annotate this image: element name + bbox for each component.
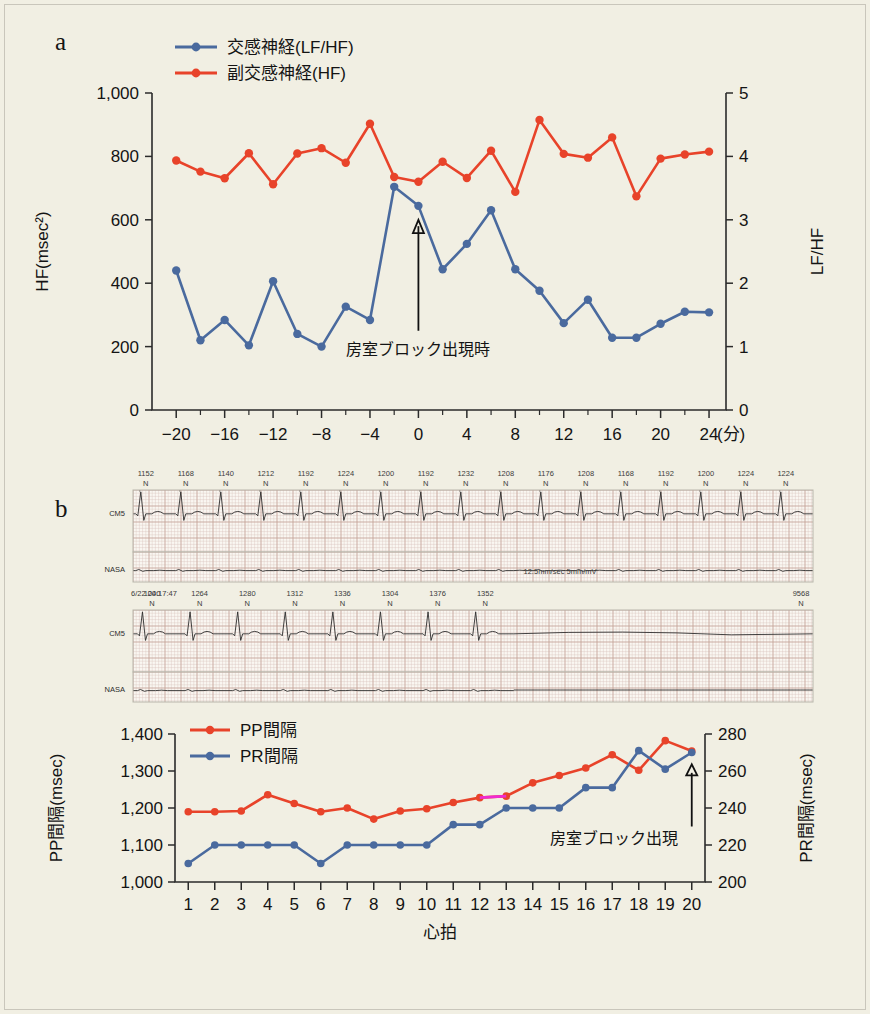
panel-c-ytick-right: 260 (718, 762, 746, 781)
panel-c-datapoint (290, 800, 298, 808)
panel-c-datapoint (502, 804, 510, 812)
panel-c-datapoint (290, 841, 298, 849)
panel-c-datapoint (635, 747, 643, 755)
panel-c-xtick: 20 (682, 895, 701, 914)
panel-c-ytick-right: 240 (718, 799, 746, 818)
panel-a-ytick-left: 1,000 (96, 84, 139, 103)
panel-a-datapoint (342, 159, 350, 167)
panel-c-xtick: 1 (184, 895, 193, 914)
ecg-rr-value: 1212 (257, 469, 274, 478)
panel-a-datapoint (560, 319, 568, 327)
panel-c-xtick: 16 (576, 895, 595, 914)
ecg-rr-value: 1168 (618, 469, 634, 478)
legend-marker (192, 69, 201, 78)
ecg-rr-value: 1168 (178, 469, 194, 478)
panel-c-axes: 1,0001,1001,2001,3001,400200220240260280… (47, 725, 816, 942)
panel-a-xtick: 16 (603, 425, 622, 444)
ecg-rr-value: 1240 (144, 589, 161, 598)
panel-c-datapoint (237, 807, 245, 815)
panel-c-legend-label: PP間隔 (240, 721, 297, 740)
panel-a-ytick-right: 0 (739, 401, 748, 420)
panel-c-datapoint (555, 804, 563, 812)
panel-a-datapoint (390, 183, 398, 191)
panel-c-ytick-left: 1,300 (120, 762, 163, 781)
panel-a-datapoint (172, 156, 180, 164)
ecg-rr-value: 1140 (218, 469, 234, 478)
ecg-strip-2: 6/22 00:17:471240N1264N1280N1312N1336N13… (105, 589, 813, 702)
figure-page: a 02004006008001,000012345−20−16−12−8−40… (0, 0, 870, 1014)
ecg-rr-value: 1200 (377, 469, 394, 478)
panel-a-datapoint (463, 174, 471, 182)
panel-c-ytick-left: 1,000 (120, 873, 163, 892)
panel-c-xtick: 7 (343, 895, 352, 914)
panel-c-datapoint (423, 841, 431, 849)
panel-c-datapoint (661, 765, 669, 773)
ecg-beat-label: N (387, 599, 392, 608)
panel-a-datapoint (269, 180, 277, 188)
panel-c-ytick-right: 280 (718, 725, 746, 744)
ecg-lead-label-cm5: CM5 (109, 509, 125, 518)
ecg-rr-value: 1200 (697, 469, 714, 478)
ecg-beat-label: N (463, 479, 468, 488)
panel-c-xtick: 17 (603, 895, 622, 914)
panel-a-datapoint (681, 150, 689, 158)
panel-c-datapoint (608, 784, 616, 792)
ecg-beat-label: N (783, 479, 788, 488)
ecg-beat-label: N (623, 479, 628, 488)
panel-a-ytick-left: 0 (130, 401, 139, 420)
panel-a-xtick: 4 (462, 425, 471, 444)
panel-a-datapoint (511, 188, 519, 196)
panel-a-legend: 交感神経(LF/HF)副交感神経(HF) (175, 38, 354, 83)
panel-a-xtick: 0 (414, 425, 423, 444)
panel-c-xtick: 12 (470, 895, 489, 914)
panel-a-datapoint (245, 341, 253, 349)
ecg-beat-label: N (197, 599, 202, 608)
panel-a-legend-label: 交感神経(LF/HF) (227, 38, 354, 57)
panel-c-datapoint (529, 779, 537, 787)
panel-a-datapoint (172, 266, 180, 274)
panel-c-datapoint (343, 804, 351, 812)
panel-c-datapoint (529, 804, 537, 812)
panel-c-xtick: 4 (263, 895, 272, 914)
panel-c-xlabel: 心拍 (423, 923, 457, 942)
panel-c-xtick: 19 (656, 895, 675, 914)
panel-a-datapoint (293, 149, 301, 157)
ecg-rr-value: 1376 (429, 589, 446, 598)
ecg-rr-value: 1232 (457, 469, 474, 478)
panel-a-chart: 02004006008001,000012345−20−16−12−8−4048… (0, 0, 870, 470)
panel-a-ytick-right: 5 (739, 84, 748, 103)
panel-c-xtick: 11 (444, 895, 462, 914)
ecg-lead-label-nasa: NASA (105, 565, 125, 574)
ecg-beat-label: N (183, 479, 188, 488)
panel-c-datapoint (396, 841, 404, 849)
panel-a-datapoint (196, 336, 204, 344)
panel-a-datapoint (487, 206, 495, 214)
panel-c-xtick: 10 (417, 895, 436, 914)
panel-c-xtick: 2 (210, 895, 219, 914)
panel-c-datapoint (688, 749, 696, 757)
panel-a-datapoint (705, 308, 713, 316)
panel-c-datapoint (211, 841, 219, 849)
panel-a-datapoint (608, 133, 616, 141)
panel-a-ytick-right: 3 (739, 211, 748, 230)
panel-c-legend: PP間隔PR間隔 (190, 721, 298, 766)
ecg-rr-value: 1176 (538, 469, 554, 478)
panel-a-datapoint (656, 154, 664, 162)
panel-c-datapoint (264, 791, 272, 799)
panel-a-datapoint (487, 146, 495, 154)
panel-c-datapoint (370, 841, 378, 849)
ecg-beat-label: N (149, 599, 154, 608)
ecg-rr-value: 1192 (298, 469, 314, 478)
panel-a-datapoint (535, 287, 543, 295)
ecg-beat-label: N (343, 479, 348, 488)
panel-c-xtick: 13 (497, 895, 516, 914)
panel-a-ytick-left: 200 (111, 338, 139, 357)
ecg-beat-label: N (303, 479, 308, 488)
panel-c-datapoint (582, 764, 590, 772)
ecg-lead-label-nasa: NASA (105, 685, 125, 694)
ecg-strip-1: 1152N1168N1140N1212N1192N1224N1200N1192N… (105, 469, 813, 582)
panel-a-datapoint (414, 178, 422, 186)
panel-a-datapoint (390, 173, 398, 181)
panel-c-xtick: 6 (316, 895, 325, 914)
panel-c-datapoint (661, 737, 669, 745)
